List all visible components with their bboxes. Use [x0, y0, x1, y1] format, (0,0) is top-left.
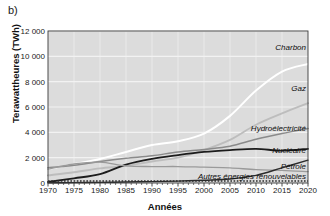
series-label-gaz: Gaz	[291, 84, 306, 93]
series-label-petrole: Pétrole	[281, 162, 306, 171]
series-label-charbon: Charbon	[275, 43, 306, 52]
series-label-hydro: Hydroélectricité	[251, 124, 306, 133]
x-tick-marks	[48, 183, 308, 187]
figure-panel-b: b) Terawattheures (TWh) Années 12 000 10…	[0, 0, 330, 216]
plot-area	[0, 0, 330, 216]
series-label-renouvelables: Autres énergies renouvelables	[198, 172, 306, 181]
series-label-nucleaire: Nucléaire	[272, 146, 306, 155]
